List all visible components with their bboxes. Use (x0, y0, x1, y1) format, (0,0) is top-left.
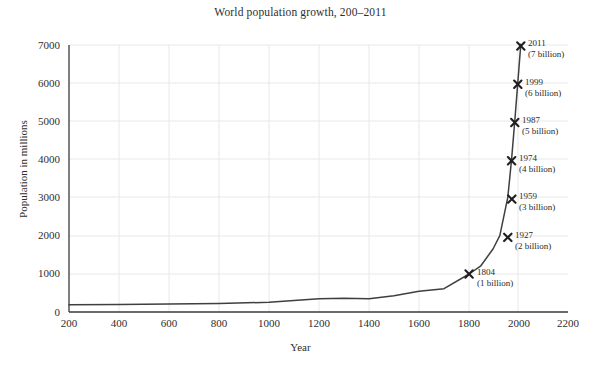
annotation-year: 1804 (477, 267, 513, 278)
annotation-value: (1 billion) (477, 278, 513, 289)
annotation-2011: 2011 (7 billion) (528, 38, 564, 59)
annotation-1999: 1999 (6 billion) (525, 77, 561, 98)
annotation-year: 1974 (519, 153, 555, 164)
annotation-value: (3 billion) (519, 202, 555, 213)
annotation-1927: 1927 (2 billion) (515, 230, 551, 251)
annotation-1987: 1987 (5 billion) (522, 115, 558, 136)
annotation-value: (6 billion) (525, 88, 561, 99)
annotation-1974: 1974 (4 billion) (519, 153, 555, 174)
annotation-1804: 1804 (1 billion) (477, 267, 513, 288)
annotation-value: (2 billion) (515, 241, 551, 252)
annotation-1959: 1959 (3 billion) (519, 191, 555, 212)
annotation-value: (5 billion) (522, 126, 558, 137)
chart-figure: World population growth, 200–2011 Popula… (0, 0, 601, 379)
annotation-year: 1959 (519, 191, 555, 202)
annotation-year: 1987 (522, 115, 558, 126)
plot-area (0, 0, 601, 379)
annotation-year: 1927 (515, 230, 551, 241)
annotation-year: 2011 (528, 38, 564, 49)
annotation-value: (4 billion) (519, 164, 555, 175)
annotation-value: (7 billion) (528, 49, 564, 60)
data-point-1927 (504, 234, 511, 241)
annotation-year: 1999 (525, 77, 561, 88)
